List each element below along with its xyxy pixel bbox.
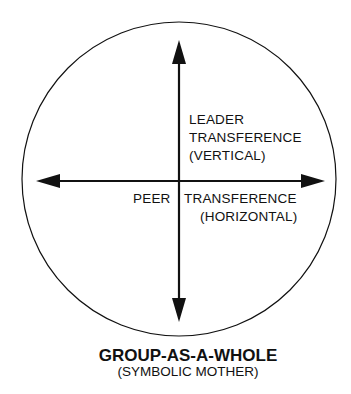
leader-label-line1: LEADER (189, 113, 244, 127)
caption-title: GROUP-AS-A-WHOLE (0, 346, 351, 366)
leader-label-line2: TRANSFERENCE (189, 131, 302, 145)
caption-subtitle: (SYMBOLIC MOTHER) (0, 364, 351, 379)
arrow-down-icon (172, 298, 186, 322)
peer-label-line2: (HORIZONTAL) (200, 210, 297, 224)
peer-label-line1: TRANSFERENCE (184, 192, 297, 206)
horizontal-arrow (36, 174, 325, 188)
arrow-right-icon (301, 174, 325, 188)
peer-label-word: PEER (133, 192, 171, 206)
leader-label-line3: (VERTICAL) (189, 149, 266, 163)
arrow-left-icon (36, 174, 60, 188)
diagram-canvas (0, 0, 351, 394)
arrow-up-icon (172, 40, 186, 64)
